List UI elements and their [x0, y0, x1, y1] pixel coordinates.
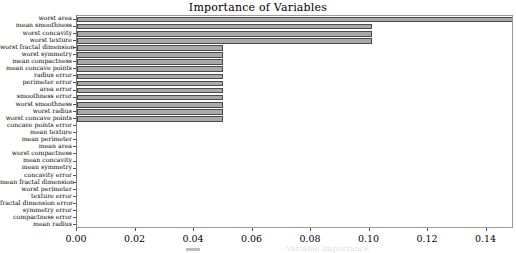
bar — [77, 38, 372, 44]
bar — [77, 102, 223, 108]
x-axis-tick — [76, 228, 77, 231]
bar — [77, 45, 223, 51]
legend-swatch-icon — [186, 248, 200, 251]
x-axis-tick — [486, 228, 487, 231]
y-axis-tick-label: worst smoothness — [0, 101, 72, 107]
y-axis-tick-label: mean radius — [0, 221, 72, 227]
plot-area — [76, 15, 513, 228]
y-axis-tick-label: mean symmetry — [0, 164, 72, 170]
bar — [77, 109, 223, 115]
x-axis-tick — [252, 228, 253, 231]
importance-of-variables-chart: Importance of Variables worst areamean s… — [0, 0, 516, 253]
bottom-caption: Variable Importance — [0, 246, 516, 253]
bar — [77, 31, 372, 37]
x-axis-tick-label: 0.02 — [124, 233, 145, 244]
x-axis-tick-label: 0.00 — [65, 233, 86, 244]
x-axis-tick — [135, 228, 136, 231]
y-axis-tick-label: worst radius — [0, 108, 72, 114]
x-axis-tick-label: 0.14 — [475, 233, 496, 244]
y-axis-labels: worst areamean smoothnessworst concavity… — [0, 15, 72, 228]
bar — [77, 74, 223, 80]
x-axis-tick — [193, 228, 194, 231]
bar — [77, 66, 223, 72]
bar — [77, 17, 513, 23]
bars-layer — [77, 16, 512, 227]
bar — [77, 95, 223, 101]
caption-text: Variable Importance — [286, 246, 369, 253]
y-axis-tick-label: worst texture — [0, 37, 72, 43]
bar — [77, 88, 223, 94]
y-axis-tick-label: mean fractal dimension — [0, 179, 72, 185]
bar — [77, 24, 372, 30]
y-axis-tick-label: worst concavity — [0, 30, 72, 36]
bar — [77, 81, 223, 87]
x-axis-tick-label: 0.04 — [182, 233, 203, 244]
x-axis-tick — [427, 228, 428, 231]
y-axis-tick-label: smoothness error — [0, 93, 72, 99]
x-axis-tick-label: 0.10 — [358, 233, 379, 244]
y-axis-tick-label: concavity error — [0, 172, 72, 178]
page-title: Importance of Variables — [0, 0, 516, 15]
y-axis-tick-label: mean smoothness — [0, 22, 72, 28]
x-axis-tick-label: 0.06 — [241, 233, 262, 244]
x-axis-tick-label: 0.08 — [299, 233, 320, 244]
x-axis-tick-label: 0.12 — [416, 233, 437, 244]
x-axis-tick — [369, 228, 370, 231]
x-axis-tick — [310, 228, 311, 231]
bar — [77, 52, 223, 58]
bar — [77, 116, 223, 122]
bar — [77, 59, 223, 65]
